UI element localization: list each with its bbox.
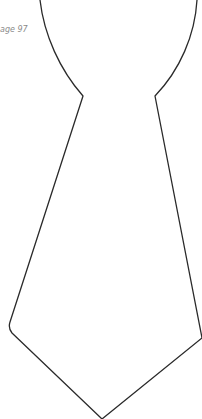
tie-outline <box>0 0 202 419</box>
